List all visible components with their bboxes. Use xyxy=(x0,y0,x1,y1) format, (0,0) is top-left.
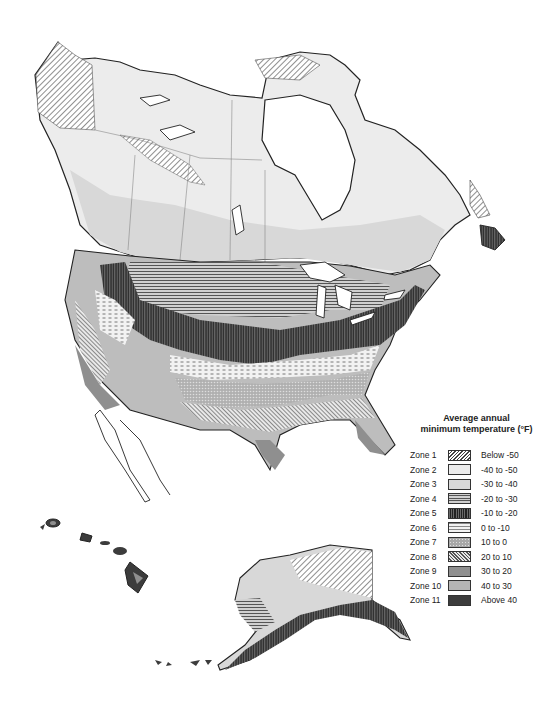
zone-range: 0 to -10 xyxy=(481,523,510,533)
canada-region xyxy=(35,42,505,275)
zone-8-swatch xyxy=(448,551,471,562)
hardiness-zone-map xyxy=(0,0,543,715)
legend-row-zone-4: Zone 4-20 to -30 xyxy=(410,492,543,507)
contiguous-us-region xyxy=(65,250,440,502)
zone-label: Zone 6 xyxy=(410,523,448,533)
zone-range: -40 to -50 xyxy=(481,465,517,475)
legend-rows: Zone 1Below -50 Zone 2-40 to -50 Zone 3-… xyxy=(410,448,543,608)
legend-row-zone-3: Zone 3-30 to -40 xyxy=(410,477,543,492)
zone-label: Zone 8 xyxy=(410,552,448,562)
zone-label: Zone 5 xyxy=(410,508,448,518)
legend-row-zone-6: Zone 60 to -10 xyxy=(410,521,543,536)
zone-label: Zone 10 xyxy=(410,581,448,591)
zone-5-swatch xyxy=(448,508,471,519)
alaska-region xyxy=(155,545,410,670)
zone-label: Zone 9 xyxy=(410,566,448,576)
zone-label: Zone 7 xyxy=(410,537,448,547)
legend-title: Average annual minimum temperature (°F) xyxy=(410,413,543,435)
zone-3-swatch xyxy=(448,479,471,490)
zone-7-swatch xyxy=(448,537,471,548)
legend-row-zone-2: Zone 2-40 to -50 xyxy=(410,463,543,478)
legend-row-zone-8: Zone 820 to 10 xyxy=(410,550,543,565)
zone-range: 20 to 10 xyxy=(481,552,512,562)
zone-range: 30 to 20 xyxy=(481,566,512,576)
hawaii-region xyxy=(40,519,148,593)
zone-range: Above 40 xyxy=(481,595,517,605)
legend-row-zone-10: Zone 1040 to 30 xyxy=(410,579,543,594)
legend-title-line-2: minimum temperature (°F) xyxy=(410,424,543,435)
zone-label: Zone 1 xyxy=(410,450,448,460)
zone-range: -20 to -30 xyxy=(481,494,517,504)
zone-label: Zone 11 xyxy=(410,595,448,605)
zone-6-swatch xyxy=(448,522,471,533)
zone-9-swatch xyxy=(448,566,471,577)
zone-label: Zone 3 xyxy=(410,479,448,489)
zone-range: -30 to -40 xyxy=(481,479,517,489)
legend-row-zone-9: Zone 930 to 20 xyxy=(410,564,543,579)
legend-row-zone-5: Zone 5-10 to -20 xyxy=(410,506,543,521)
legend-row-zone-11: Zone 11Above 40 xyxy=(410,593,543,608)
zone-10-swatch xyxy=(448,580,471,591)
zone-11-swatch xyxy=(448,595,471,606)
zone-range: Below -50 xyxy=(481,450,519,460)
zone-range: 10 to 0 xyxy=(481,537,507,547)
zone-range: 40 to 30 xyxy=(481,581,512,591)
legend-row-zone-1: Zone 1Below -50 xyxy=(410,448,543,463)
legend-title-line-1: Average annual xyxy=(410,413,543,424)
zone-1-swatch xyxy=(448,450,471,461)
zone-2-swatch xyxy=(448,464,471,475)
zone-label: Zone 2 xyxy=(410,465,448,475)
zone-4-swatch xyxy=(448,493,471,504)
zone-label: Zone 4 xyxy=(410,494,448,504)
zone-legend: Average annual minimum temperature (°F) … xyxy=(410,413,543,608)
legend-row-zone-7: Zone 710 to 0 xyxy=(410,535,543,550)
zone-range: -10 to -20 xyxy=(481,508,517,518)
